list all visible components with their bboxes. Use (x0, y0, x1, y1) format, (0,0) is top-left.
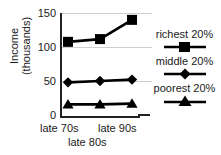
y-tick-label-100: 100 (0, 42, 56, 53)
legend-item-poorest: poorest 20% (148, 82, 221, 107)
line-chart-figure: Income (thousands) 150 100 50 0 late 70s… (0, 0, 221, 155)
x-tick-label-late-80s: late 80s (68, 136, 107, 148)
triangle-marker (148, 95, 221, 107)
legend-label-poorest: poorest 20% (148, 82, 221, 95)
y-tick-label-150: 150 (0, 8, 56, 19)
square-marker (148, 41, 221, 53)
y-tick-label-0: 0 (0, 110, 56, 121)
legend-label-middle: middle 20% (148, 55, 221, 68)
x-tick-label-late-90s: late 90s (98, 122, 137, 134)
chart-legend: richest 20% middle 20% poorest 20% (148, 28, 221, 109)
legend-item-richest: richest 20% (148, 28, 221, 53)
legend-item-middle: middle 20% (148, 55, 221, 80)
legend-label-richest: richest 20% (148, 28, 221, 41)
plot-area (60, 13, 140, 118)
diamond-marker (148, 68, 221, 80)
x-tick-label-late-70s: late 70s (40, 122, 79, 134)
y-tick-label-50: 50 (0, 76, 56, 87)
